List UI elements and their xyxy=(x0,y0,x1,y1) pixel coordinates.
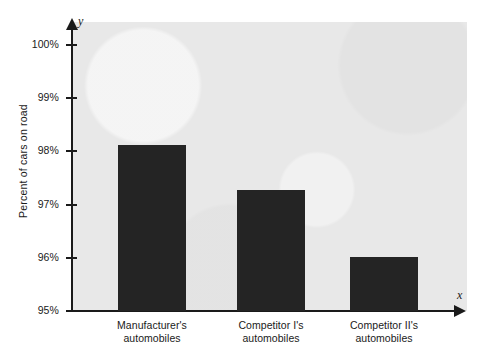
category-label-line: automobiles xyxy=(211,332,331,345)
bar-3 xyxy=(350,257,418,311)
bar-chart-figure: y x Percent of cars on road 95%96%97%98%… xyxy=(0,0,485,364)
category-label-line: Competitor I's xyxy=(211,319,331,332)
category-label-line: automobiles xyxy=(324,332,444,345)
bar-1 xyxy=(118,145,186,311)
bars-layer xyxy=(0,0,485,364)
category-label-line: Competitor II's xyxy=(324,319,444,332)
category-label-2: Competitor I'sautomobiles xyxy=(211,319,331,345)
category-label-line: automobiles xyxy=(92,332,212,345)
bar-2 xyxy=(237,190,305,311)
category-label-1: Manufacturer'sautomobiles xyxy=(92,319,212,345)
category-label-line: Manufacturer's xyxy=(92,319,212,332)
category-label-3: Competitor II'sautomobiles xyxy=(324,319,444,345)
